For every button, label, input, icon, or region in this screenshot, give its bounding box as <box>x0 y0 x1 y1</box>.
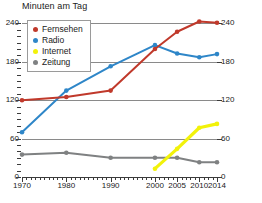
y-axis-minor-tick <box>17 81 21 82</box>
x-axis-minor-tick <box>190 177 191 180</box>
x-axis-minor-tick <box>35 177 36 180</box>
y-axis-minor-tick <box>17 119 21 120</box>
legend-item-radio[interactable]: Radio <box>33 35 83 46</box>
x-axis-minor-tick <box>195 177 196 180</box>
y-axis-minor-tick <box>17 68 21 69</box>
chart-container: Minuten am Tag 006060120120180180240240 … <box>0 0 262 203</box>
y-axis-minor-tick <box>17 87 21 88</box>
y-axis-label-right-240: 240 <box>221 19 234 27</box>
x-axis-minor-tick <box>213 177 214 180</box>
data-point-zeitung <box>153 156 158 161</box>
x-axis-minor-tick <box>97 177 98 180</box>
x-axis-minor-tick <box>88 177 89 180</box>
x-axis-minor-tick <box>120 177 121 180</box>
x-axis-label-2010: 2010 <box>190 182 208 190</box>
y-axis-label-right-180: 180 <box>221 58 234 66</box>
x-axis-minor-tick <box>26 177 27 180</box>
chart-legend: FernsehenRadioInternetZeitung <box>27 20 91 72</box>
data-point-fernsehen <box>20 98 25 103</box>
x-axis-minor-tick <box>84 177 85 180</box>
data-point-zeitung <box>215 160 220 165</box>
y-axis-major-tick <box>16 177 21 178</box>
data-point-internet <box>215 122 220 127</box>
x-axis-minor-tick <box>159 177 160 180</box>
y-axis-minor-tick <box>17 55 21 56</box>
y-axis-minor-tick <box>17 107 21 108</box>
y-axis-label-right-120: 120 <box>221 96 234 104</box>
x-axis-minor-tick <box>146 177 147 180</box>
x-axis-minor-tick <box>106 177 107 180</box>
y-axis-major-tick <box>16 62 21 63</box>
data-point-fernsehen <box>108 88 113 93</box>
x-axis-minor-tick <box>49 177 50 180</box>
data-point-fernsehen <box>175 29 180 34</box>
y-axis-major-tick <box>217 62 222 63</box>
legend-marker-icon <box>33 49 38 54</box>
x-axis-minor-tick <box>71 177 72 180</box>
y-axis-minor-tick <box>17 158 21 159</box>
x-axis-minor-tick <box>40 177 41 180</box>
data-point-zeitung <box>197 160 202 165</box>
y-axis-minor-tick <box>17 126 21 127</box>
data-point-radio <box>175 51 180 56</box>
x-axis-minor-tick <box>102 177 103 180</box>
y-axis-major-tick <box>217 139 222 140</box>
data-point-radio <box>215 52 220 57</box>
y-axis-major-tick <box>16 23 21 24</box>
y-axis-minor-tick <box>17 164 21 165</box>
y-axis-major-tick <box>16 139 21 140</box>
y-axis-minor-tick <box>17 94 21 95</box>
x-axis-minor-tick <box>142 177 143 180</box>
x-axis-minor-tick <box>44 177 45 180</box>
data-point-radio <box>20 130 25 135</box>
x-axis-label-2005: 2005 <box>168 182 186 190</box>
x-axis-minor-tick <box>151 177 152 180</box>
series-line-zeitung <box>22 153 217 163</box>
data-point-fernsehen <box>215 20 220 25</box>
x-axis-label-1990: 1990 <box>102 182 120 190</box>
y-axis-major-tick <box>217 100 222 101</box>
x-axis-minor-tick <box>62 177 63 180</box>
data-point-zeitung <box>175 156 180 161</box>
data-point-zeitung <box>64 150 69 155</box>
legend-item-label: Internet <box>42 47 71 56</box>
x-axis-minor-tick <box>168 177 169 180</box>
data-point-internet <box>153 166 158 171</box>
y-axis-minor-tick <box>17 36 21 37</box>
legend-item-fernsehen[interactable]: Fernsehen <box>33 24 83 35</box>
y-axis-minor-tick <box>17 30 21 31</box>
legend-marker-icon <box>33 60 38 65</box>
x-axis-minor-tick <box>137 177 138 180</box>
legend-item-label: Fernsehen <box>42 25 83 34</box>
x-axis-minor-tick <box>80 177 81 180</box>
y-axis-minor-tick <box>17 113 21 114</box>
x-axis-label-2014: 2014 <box>208 182 226 190</box>
x-axis-label-2000: 2000 <box>146 182 164 190</box>
x-axis-minor-tick <box>164 177 165 180</box>
legend-item-label: Zeitung <box>42 58 70 67</box>
y-axis-minor-tick <box>17 145 21 146</box>
x-axis-minor-tick <box>182 177 183 180</box>
y-axis-minor-tick <box>17 151 21 152</box>
legend-marker-icon <box>33 27 38 32</box>
x-axis-label-1980: 1980 <box>57 182 75 190</box>
x-axis-minor-tick <box>115 177 116 180</box>
x-axis-minor-tick <box>128 177 129 180</box>
data-point-radio <box>197 55 202 60</box>
x-axis-minor-tick <box>133 177 134 180</box>
y-axis-minor-tick <box>17 49 21 50</box>
data-point-radio <box>108 64 113 69</box>
data-point-internet <box>197 125 202 130</box>
legend-item-internet[interactable]: Internet <box>33 46 83 57</box>
x-axis-minor-tick <box>53 177 54 180</box>
data-point-zeitung <box>20 152 25 157</box>
x-axis-minor-tick <box>204 177 205 180</box>
x-axis-minor-tick <box>186 177 187 180</box>
x-axis-label-1970: 1970 <box>13 182 31 190</box>
x-axis-minor-tick <box>75 177 76 180</box>
data-point-fernsehen <box>153 47 158 52</box>
y-axis-label-right-60: 60 <box>221 135 230 143</box>
x-axis-minor-tick <box>173 177 174 180</box>
chart-title: Minuten am Tag <box>22 1 87 11</box>
legend-item-zeitung[interactable]: Zeitung <box>33 57 83 68</box>
